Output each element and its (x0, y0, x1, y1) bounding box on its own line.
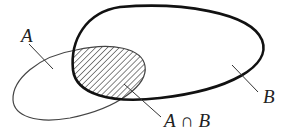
label-a: A (21, 26, 33, 45)
leader-line-a (29, 44, 53, 69)
label-a-cap-b: A ∩ B (164, 111, 210, 130)
intersection-region (73, 6, 264, 100)
venn-diagram: A B A ∩ B (0, 0, 290, 136)
venn-diagram-graphic (0, 0, 290, 136)
label-b: B (263, 87, 275, 106)
